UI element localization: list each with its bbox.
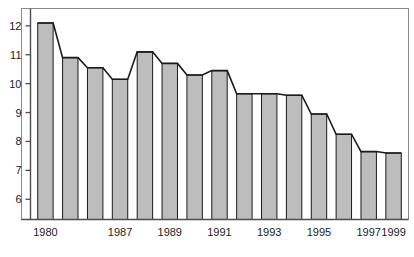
x-axis-tick-label: 1997 bbox=[356, 226, 380, 238]
bar[interactable]: 1989: 10.7 bbox=[162, 63, 177, 219]
x-axis-tick-label: 1993 bbox=[257, 226, 281, 238]
y-axis-tick-label: 8 bbox=[15, 135, 21, 147]
y-axis-tick-label: 11 bbox=[10, 49, 21, 61]
x-axis-tick-label: 1989 bbox=[158, 226, 182, 238]
bar-chart: 1211109876 1980: 12.110.910.551987: 10.1… bbox=[0, 0, 414, 257]
y-axis-tick-label: 7 bbox=[15, 164, 21, 176]
bar[interactable]: 9.65 bbox=[237, 94, 252, 220]
bar[interactable]: 10.9 bbox=[63, 58, 78, 220]
x-axis-tick-label: 1999 bbox=[381, 226, 405, 238]
bar[interactable]: 1987: 10.15 bbox=[112, 79, 127, 219]
x-axis-tick-label: 1987 bbox=[108, 226, 132, 238]
bar[interactable]: 8.25 bbox=[336, 134, 351, 219]
x-axis-tick-label: 1980 bbox=[33, 226, 57, 238]
x-axis-tick-label: 1991 bbox=[207, 226, 231, 238]
bar[interactable]: 9.6 bbox=[286, 95, 301, 219]
bar[interactable]: 11.1 bbox=[137, 52, 152, 220]
bar[interactable]: 10.55 bbox=[87, 68, 102, 220]
bar[interactable]: 1993: 9.65 bbox=[262, 94, 277, 220]
bar[interactable]: 1980: 12.1 bbox=[38, 23, 53, 220]
y-axis-tick-label: 12 bbox=[9, 20, 21, 32]
bar[interactable]: 1999: 7.6 bbox=[386, 153, 401, 219]
y-axis-tick-label: 9 bbox=[15, 107, 21, 119]
y-axis-tick-label: 6 bbox=[15, 193, 21, 205]
y-axis-tick-label: 10 bbox=[9, 78, 21, 90]
bar[interactable]: 1995: 8.95 bbox=[311, 114, 326, 220]
bar[interactable]: 1997: 7.65 bbox=[361, 152, 376, 220]
x-axis-tick-label: 1995 bbox=[307, 226, 331, 238]
bar[interactable]: 10.3 bbox=[187, 75, 202, 220]
bar[interactable]: 1991: 10.45 bbox=[212, 71, 227, 220]
chart-container: 1211109876 1980: 12.110.910.551987: 10.1… bbox=[0, 0, 414, 257]
